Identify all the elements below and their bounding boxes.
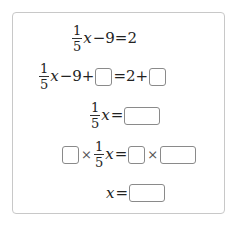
answer-blank-multiplier-left[interactable] [62, 146, 79, 164]
denominator: 5 [95, 155, 103, 169]
denominator: 5 [40, 77, 48, 91]
equation-step-2: 1 5 x −9+ =2+ [39, 62, 166, 91]
times-sign: × [81, 148, 92, 161]
equals-sign: = [115, 186, 128, 201]
answer-blank-multiplier-right[interactable] [128, 146, 145, 164]
fraction-one-fifth: 1 5 [90, 101, 100, 130]
equals-sign: = [111, 108, 124, 123]
equation-step-1: 1 5 x −9=2 [72, 24, 138, 53]
answer-blank-simplified[interactable] [124, 107, 160, 125]
variable-x: x [83, 31, 91, 46]
variable-x: x [101, 108, 109, 123]
denominator: 5 [73, 39, 81, 53]
fraction-one-fifth: 1 5 [72, 24, 82, 53]
answer-blank-add-right[interactable] [149, 68, 166, 86]
answer-blank-solution[interactable] [129, 184, 165, 202]
numerator: 1 [72, 24, 82, 39]
equation-step-3: 1 5 x = [90, 101, 160, 130]
fraction-one-fifth: 1 5 [39, 62, 49, 91]
variable-x: x [106, 186, 114, 201]
equation-rest: −9=2 [93, 31, 137, 46]
equation-step-4: × 1 5 x = × [62, 140, 196, 169]
answer-blank-value[interactable] [160, 146, 196, 164]
right-side: =2+ [113, 69, 148, 84]
variable-x: x [105, 147, 113, 162]
equation-step-5: x = [106, 184, 165, 202]
answer-blank-add-left[interactable] [95, 68, 112, 86]
fraction-one-fifth: 1 5 [94, 140, 104, 169]
left-side-rest: −9+ [60, 69, 95, 84]
variable-x: x [50, 69, 58, 84]
equals-sign: = [115, 147, 128, 162]
numerator: 1 [90, 101, 100, 116]
numerator: 1 [94, 140, 104, 155]
times-sign: × [147, 148, 158, 161]
denominator: 5 [91, 116, 99, 130]
numerator: 1 [39, 62, 49, 77]
